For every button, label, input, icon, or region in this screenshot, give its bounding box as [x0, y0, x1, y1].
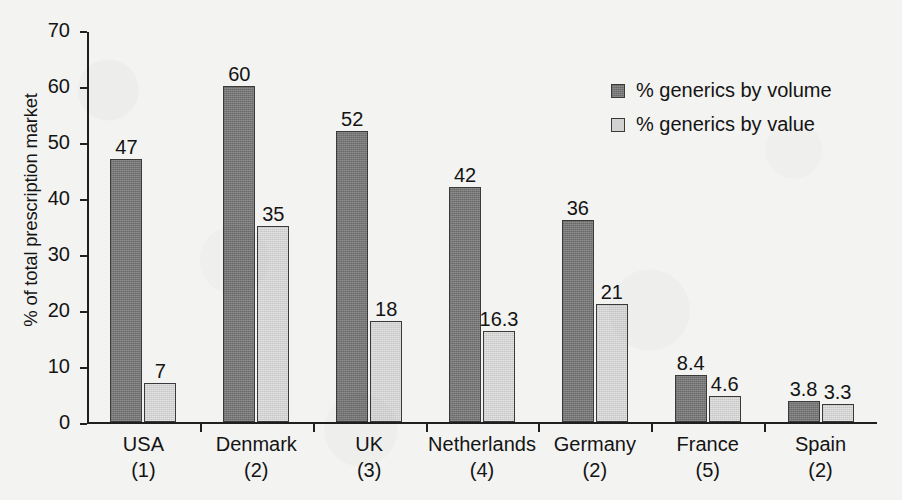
y-axis-tick-mark	[80, 423, 87, 425]
bar-value-label: 42	[454, 165, 476, 185]
category-name: USA	[123, 433, 164, 455]
legend-item: % generics by volume	[611, 79, 832, 102]
category-rank: (2)	[764, 458, 877, 484]
x-axis-tick-mark	[538, 424, 540, 432]
y-axis-tick-mark	[80, 87, 87, 89]
bar: 36	[562, 220, 594, 422]
bar-value-label: 47	[115, 137, 137, 157]
bar-value-label: 60	[228, 64, 250, 84]
bar: 18	[370, 321, 402, 422]
chart-legend: % generics by volume% generics by value	[611, 79, 832, 136]
category-rank: (4)	[426, 458, 539, 484]
legend-label: % generics by volume	[636, 79, 832, 102]
category-rank: (2)	[200, 458, 313, 484]
bar-value-label: 3.3	[824, 382, 852, 402]
y-axis-title: % of total prescription market	[14, 0, 48, 430]
bar: 60	[223, 86, 255, 422]
category-name: Netherlands	[428, 433, 536, 455]
x-axis-tick-mark	[200, 424, 202, 432]
category-rank: (1)	[87, 458, 200, 484]
category-name: Denmark	[216, 433, 297, 455]
category-rank: (3)	[313, 458, 426, 484]
category-name: France	[677, 433, 739, 455]
bar: 8.4	[675, 375, 707, 422]
bar: 3.3	[822, 404, 854, 422]
bar: 3.8	[788, 401, 820, 422]
x-axis-category-label: UK(3)	[313, 432, 426, 483]
y-axis-tick-mark	[80, 199, 87, 201]
category-name: UK	[355, 433, 383, 455]
x-axis-category-label: Netherlands(4)	[426, 432, 539, 483]
bar-value-label: 16.3	[480, 309, 519, 329]
x-axis-category-label: Spain(2)	[764, 432, 877, 483]
bar-value-label: 35	[262, 204, 284, 224]
bar: 35	[257, 226, 289, 422]
bar: 21	[596, 304, 628, 422]
x-axis-category-label: USA(1)	[87, 432, 200, 483]
x-axis-category-label: Denmark(2)	[200, 432, 313, 483]
bar: 4.6	[709, 396, 741, 422]
bar: 52	[336, 131, 368, 422]
x-axis-tick-mark	[313, 424, 315, 432]
y-axis-line	[87, 32, 89, 424]
bar-value-label: 3.8	[790, 379, 818, 399]
y-axis-tick-mark	[80, 143, 87, 145]
bar-value-label: 21	[601, 282, 623, 302]
bar-value-label: 36	[567, 198, 589, 218]
legend-swatch-volume	[611, 84, 625, 98]
bar: 7	[144, 383, 176, 422]
bar: 42	[449, 187, 481, 422]
bar-value-label: 7	[155, 361, 166, 381]
category-name: Germany	[554, 433, 636, 455]
y-axis-tick-label: 0	[59, 411, 70, 434]
x-axis-line	[87, 422, 877, 424]
x-axis-category-label: Germany(2)	[538, 432, 651, 483]
legend-swatch-value	[611, 118, 625, 132]
bar: 47	[110, 159, 142, 422]
y-axis-tick-mark	[80, 255, 87, 257]
category-rank: (2)	[538, 458, 651, 484]
x-axis-tick-mark	[764, 424, 766, 432]
y-axis-tick-label: 70	[48, 19, 70, 42]
y-axis-tick-label: 30	[48, 243, 70, 266]
x-axis-category-label: France(5)	[651, 432, 764, 483]
x-axis-tick-mark	[651, 424, 653, 432]
x-axis-tick-mark	[426, 424, 428, 432]
y-axis-tick-label: 20	[48, 299, 70, 322]
y-axis-tick-mark	[80, 31, 87, 33]
bar-value-label: 8.4	[677, 353, 705, 373]
y-axis-tick-label: 50	[48, 131, 70, 154]
chart-figure: % of total prescription market 706050403…	[0, 0, 902, 500]
category-name: Spain	[795, 433, 846, 455]
bar: 16.3	[483, 331, 515, 422]
y-axis-tick-label: 60	[48, 75, 70, 98]
bar-value-label: 18	[375, 299, 397, 319]
legend-item: % generics by value	[611, 113, 832, 136]
y-axis-tick-label: 10	[48, 355, 70, 378]
bar-value-label: 52	[341, 109, 363, 129]
category-rank: (5)	[651, 458, 764, 484]
y-axis-tick-mark	[80, 311, 87, 313]
bar-value-label: 4.6	[711, 374, 739, 394]
y-axis-tick-mark	[80, 367, 87, 369]
legend-label: % generics by value	[636, 113, 815, 136]
y-axis-tick-label: 40	[48, 187, 70, 210]
